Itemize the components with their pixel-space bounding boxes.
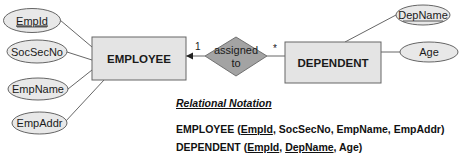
relational-notation-title: Relational Notation <box>176 97 272 109</box>
primary-key-empid: EmpId <box>241 123 273 135</box>
attribute-label: DepName <box>398 9 448 21</box>
close-paren: ) <box>359 141 363 153</box>
line-empname <box>68 70 92 89</box>
entity-label: EMPLOYEE <box>107 53 171 65</box>
cardinality-many: * <box>273 43 277 54</box>
relation-name: EMPLOYEE <box>176 123 234 135</box>
relation-fields: , Age <box>334 141 359 153</box>
line-empid <box>60 20 92 47</box>
relationship-label-line1: assigned <box>214 44 258 56</box>
entity-label: DEPENDENT <box>298 57 369 69</box>
close-paren: ) <box>441 123 445 135</box>
relational-employee: EMPLOYEE (EmpId, SocSecNo, EmpName, EmpA… <box>176 123 444 135</box>
attribute-label: EmpId <box>16 15 48 27</box>
attribute-socsecno[interactable]: SocSecNo <box>7 40 67 63</box>
line-socsecno <box>67 52 92 60</box>
attribute-depname[interactable]: DepName <box>396 5 450 25</box>
line-depname <box>345 15 396 42</box>
attribute-empid[interactable]: EmpId <box>4 9 61 33</box>
attribute-label: SocSecNo <box>11 46 63 58</box>
cardinality-one: 1 <box>195 41 201 52</box>
relation-name: DEPENDENT <box>176 141 241 153</box>
relation-fields: , SocSecNo, EmpName, EmpAddr <box>273 123 441 135</box>
arrowhead-icon <box>186 53 193 60</box>
attribute-label: EmpName <box>12 83 64 95</box>
attribute-age[interactable]: Age <box>400 42 458 62</box>
relationship-label-line2: to <box>231 57 240 69</box>
attribute-empname[interactable]: EmpName <box>8 78 68 100</box>
attribute-empaddr[interactable]: EmpAddr <box>12 112 67 134</box>
entity-dependent[interactable]: DEPENDENT <box>285 42 381 83</box>
attribute-label: Age <box>419 46 439 58</box>
relationship-assigned-to[interactable]: assigned to <box>205 37 267 76</box>
entity-employee[interactable]: EMPLOYEE <box>92 37 186 80</box>
attribute-label: EmpAddr <box>17 117 63 129</box>
relational-dependent: DEPENDENT (EmpId, DepName, Age) <box>176 141 362 153</box>
primary-key-depname: DepName <box>285 141 333 153</box>
primary-key-empid: EmpId <box>247 141 279 153</box>
